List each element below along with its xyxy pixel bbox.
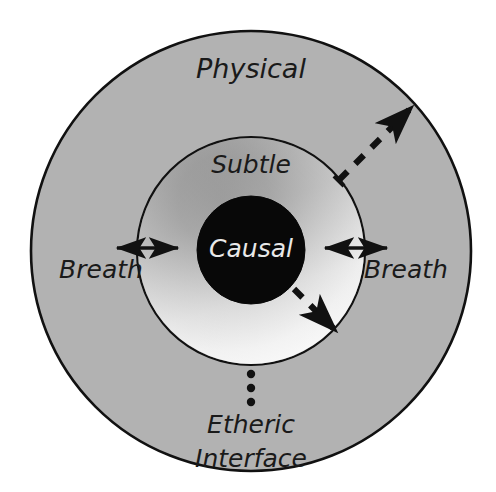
etheric-dot-2 bbox=[247, 384, 255, 392]
causal-label: Causal bbox=[209, 234, 293, 263]
physical-label: Physical bbox=[196, 53, 306, 84]
diagram-canvas: Physical Subtle Causal Breath Breath Eth… bbox=[0, 0, 496, 492]
concentric-circles-diagram: Physical Subtle Causal Breath Breath Eth… bbox=[0, 0, 496, 492]
breath-right-label: Breath bbox=[364, 255, 448, 284]
etheric-dot-3 bbox=[247, 398, 255, 406]
etheric-interface-label-line2: Interface bbox=[195, 444, 307, 473]
etheric-dot-1 bbox=[247, 370, 255, 378]
etheric-interface-label-line1: Etheric bbox=[207, 410, 295, 439]
subtle-label: Subtle bbox=[211, 150, 291, 179]
breath-left-label: Breath bbox=[59, 255, 143, 284]
